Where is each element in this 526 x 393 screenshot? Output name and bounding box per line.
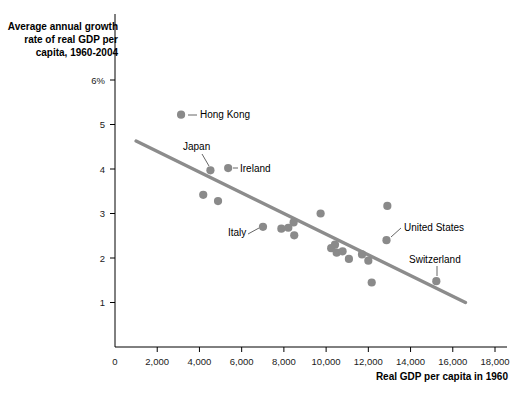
- point-label: Ireland: [240, 163, 271, 174]
- point-label: Japan: [183, 141, 210, 152]
- chart-container: Average annual growth rate of real GDP p…: [0, 0, 526, 393]
- data-point: [177, 111, 185, 119]
- axes-group: [115, 14, 507, 347]
- data-point: [290, 231, 298, 239]
- data-point: [317, 209, 325, 217]
- data-point: [206, 166, 214, 174]
- leader-line: [248, 228, 259, 234]
- point-label: Hong Kong: [200, 109, 250, 120]
- scatter-plot-svg: 123456% 02,0004,0006,0008,00010,00012,00…: [0, 0, 526, 393]
- data-point: [331, 241, 339, 249]
- data-point: [199, 191, 207, 199]
- x-tick-label: 2,000: [145, 356, 169, 367]
- x-tick-label: 6,000: [230, 356, 254, 367]
- data-point: [383, 202, 391, 210]
- data-point: [338, 247, 346, 255]
- y-tick-label: 5: [100, 119, 105, 130]
- x-tick-label: 0: [112, 356, 117, 367]
- data-point: [432, 277, 440, 285]
- y-axis-ticks: 123456%: [91, 75, 115, 309]
- data-point: [345, 255, 353, 263]
- x-tick-label: 4,000: [188, 356, 212, 367]
- y-tick-label: 3: [100, 208, 105, 219]
- x-axis-ticks: 02,0004,0006,0008,00010,00012,00014,0001…: [112, 347, 509, 367]
- data-point: [290, 218, 298, 226]
- data-point: [368, 278, 376, 286]
- x-tick-label: 8,000: [272, 356, 296, 367]
- data-point: [364, 257, 372, 265]
- point-label: United States: [404, 222, 464, 233]
- x-tick-label: 12,000: [354, 356, 383, 367]
- point-labels-group: Hong KongJapanIrelandItalyUnited StatesS…: [183, 109, 464, 265]
- data-point: [358, 250, 366, 258]
- y-tick-label: 6%: [91, 75, 105, 86]
- leader-line: [202, 154, 209, 166]
- x-tick-label: 14,000: [396, 356, 425, 367]
- x-tick-label: 18,000: [480, 356, 509, 367]
- y-tick-label: 4: [100, 164, 105, 175]
- annotation-leader-lines: [188, 115, 437, 276]
- y-tick-label: 1: [100, 297, 105, 308]
- point-label: Switzerland: [409, 254, 461, 265]
- x-tick-label: 16,000: [438, 356, 467, 367]
- point-label: Italy: [228, 227, 246, 238]
- data-point: [224, 164, 232, 172]
- y-tick-label: 2: [100, 253, 105, 264]
- data-point: [277, 225, 285, 233]
- data-point: [382, 236, 390, 244]
- leader-line: [391, 228, 401, 237]
- x-tick-label: 10,000: [312, 356, 341, 367]
- data-points-group: [177, 111, 440, 287]
- data-point: [259, 223, 267, 231]
- data-point: [214, 197, 222, 205]
